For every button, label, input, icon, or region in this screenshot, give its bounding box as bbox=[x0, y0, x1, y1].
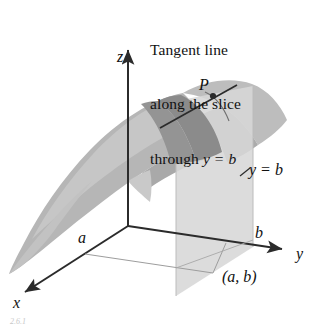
coordinate-pair-label: (a, b) bbox=[222, 268, 257, 287]
caption-tangent-line: Tangent line along the slice through y =… bbox=[150, 4, 241, 205]
plane-label-text: y = b bbox=[249, 161, 283, 178]
caption-line-3-prefix: through bbox=[150, 150, 203, 167]
y-axis-label: y bbox=[296, 245, 303, 264]
coordinate-pair-text: (a, b) bbox=[222, 268, 257, 285]
figure-number-label: 2.6.1 bbox=[10, 317, 26, 326]
tangent-line-slice-diagram: Tangent line along the slice through y =… bbox=[0, 0, 314, 328]
point-p-label: P bbox=[199, 76, 209, 95]
caption-line-2: along the slice bbox=[150, 95, 241, 113]
caption-line-3: through y = b bbox=[150, 150, 241, 168]
a-mark-label: a bbox=[78, 229, 86, 248]
caption-line-3-math: y = b bbox=[203, 150, 236, 167]
surface-left-taper bbox=[9, 181, 92, 274]
x-axis-label: x bbox=[13, 294, 20, 313]
z-axis-label: z bbox=[117, 48, 123, 67]
b-mark-label: b bbox=[255, 224, 263, 243]
plane-y-equals-b-label: y = b bbox=[249, 161, 283, 180]
caption-line-1: Tangent line bbox=[150, 41, 241, 59]
